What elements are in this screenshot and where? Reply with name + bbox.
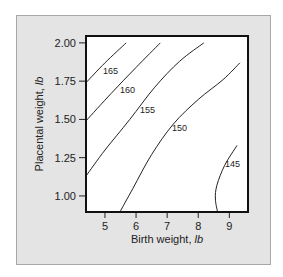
x-axis-title: Birth weight, lb	[131, 233, 203, 245]
x-tick-label: 6	[133, 220, 139, 232]
contour-label-165: 165	[103, 66, 118, 76]
x-tick-label: 7	[164, 220, 170, 232]
y-tick-label: 1.50	[55, 113, 76, 125]
y-tick-label: 1.25	[55, 152, 76, 164]
x-tick-label: 5	[102, 220, 108, 232]
contour-label-160: 160	[120, 85, 135, 95]
y-tick-label: 1.00	[55, 190, 76, 202]
y-axis-title: Placental weight, lb	[33, 77, 45, 172]
contour-chart: 165160155150145 56789 1.001.251.501.752.…	[0, 0, 283, 277]
y-tick-label: 2.00	[55, 37, 76, 49]
contour-label-155: 155	[140, 105, 155, 115]
plot-area	[86, 36, 248, 212]
x-axis: 56789	[102, 213, 233, 232]
contour-label-150: 150	[172, 123, 187, 133]
x-tick-label: 9	[226, 220, 232, 232]
y-tick-label: 1.75	[55, 75, 76, 87]
x-tick-label: 8	[195, 220, 201, 232]
contour-label-145: 145	[225, 159, 240, 169]
y-axis: 1.001.251.501.752.00	[55, 37, 85, 202]
